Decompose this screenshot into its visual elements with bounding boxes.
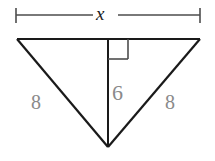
left-leg-length-label: 8: [31, 92, 41, 112]
geometry-figure: x 6 8 8: [0, 0, 215, 161]
right-angle-marker: [108, 39, 128, 59]
right-leg-length-label: 8: [165, 92, 175, 112]
dimension-line-group: [16, 8, 200, 23]
geometry-canvas: [0, 0, 215, 161]
base-length-label: x: [96, 4, 104, 23]
altitude-length-label: 6: [112, 82, 123, 104]
